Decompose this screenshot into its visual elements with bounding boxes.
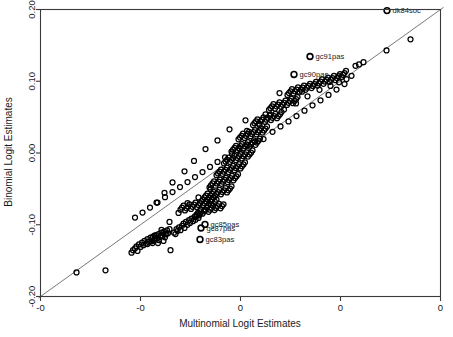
data-point (408, 37, 413, 42)
data-point (133, 215, 138, 220)
data-point (178, 185, 183, 190)
y-axis-tick-label: -0.20 (26, 286, 37, 308)
data-point (243, 118, 248, 123)
data-point (103, 268, 108, 273)
data-point (215, 159, 220, 164)
x-axis-tick-label: 0 (238, 302, 243, 313)
data-point-labeled (198, 225, 204, 231)
y-axis-tick-label: -0.10 (26, 214, 37, 236)
x-axis-tick-label: 0 (438, 302, 443, 313)
data-point (196, 195, 201, 200)
data-point (215, 138, 220, 143)
point-annotations-layer: dk84socgc91pasgc90pasgc85pasgc87pasgc83p… (197, 6, 421, 244)
x-axis-tick-label: 0 (338, 302, 343, 313)
point-label: dk84soc (393, 6, 421, 15)
data-point-labeled (197, 237, 203, 243)
data-point (148, 205, 153, 210)
data-point (200, 170, 205, 175)
data-point (310, 103, 315, 108)
data-point (326, 92, 331, 97)
data-point (170, 180, 175, 185)
scatter-plot-figure: dk84socgc91pasgc90pasgc85pasgc87pasgc83p… (0, 0, 453, 337)
y-axis: -0.20-0.100.000.100.20 (26, 0, 40, 307)
data-point (182, 169, 187, 174)
data-point (349, 73, 354, 78)
x-axis: -0-0000 (36, 297, 443, 314)
data-point (140, 210, 145, 215)
y-axis-tick-label: 0.10 (26, 72, 37, 91)
data-point (170, 190, 175, 195)
data-point (193, 175, 198, 180)
data-point (361, 60, 366, 65)
data-point (277, 91, 282, 96)
data-point (317, 87, 322, 92)
data-point (334, 87, 339, 92)
point-label: gc90pas (300, 70, 329, 79)
point-label: gc83pas (206, 235, 235, 244)
data-point (168, 248, 173, 253)
x-axis-title: Multinomial Logit Estimates (179, 318, 301, 329)
data-point (227, 127, 232, 132)
data-point (167, 219, 172, 224)
x-axis-tick-label: -0 (36, 302, 44, 313)
y-axis-tick-label: 0.20 (26, 0, 37, 19)
data-point (261, 137, 266, 142)
plot-reference-line (39, 7, 444, 298)
data-point (203, 147, 208, 152)
data-point (286, 119, 291, 124)
data-point (302, 108, 307, 113)
y-axis-title: Binomial Logit Estimates (3, 97, 14, 207)
data-point-labeled (291, 72, 297, 78)
point-label: gc91pas (316, 52, 345, 61)
data-point (192, 158, 197, 163)
data-point (342, 82, 347, 87)
data-points-layer (74, 37, 413, 275)
data-point (305, 94, 310, 99)
data-point (208, 164, 213, 169)
x-axis-tick-label: -0 (136, 302, 144, 313)
data-point (294, 114, 299, 119)
plot-canvas: dk84socgc91pasgc90pasgc85pasgc87pasgc83p… (0, 0, 453, 337)
y-axis-tick-label: 0.00 (26, 144, 37, 163)
data-point (185, 180, 190, 185)
data-point (318, 98, 323, 103)
data-point-labeled (307, 54, 313, 60)
point-label: gc87pas (207, 224, 236, 233)
data-point-labeled (384, 8, 390, 14)
